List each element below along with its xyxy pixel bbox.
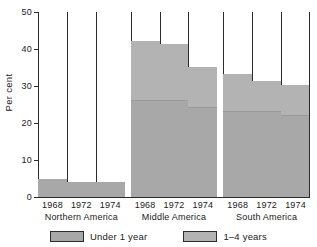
y-tick-label: 50 bbox=[0, 7, 32, 17]
y-tick-label: 10 bbox=[0, 155, 32, 165]
bar-chart: Per cent 01020304050 196819721974Norther… bbox=[0, 0, 317, 247]
bar-segment-1-4-years bbox=[131, 41, 160, 101]
bar-column bbox=[67, 12, 96, 197]
bar-column bbox=[96, 12, 125, 197]
legend-swatch-1-4-years bbox=[183, 231, 217, 242]
legend-label-under-1-year: Under 1 year bbox=[90, 231, 147, 242]
x-tick-label: 1974 bbox=[192, 200, 213, 210]
bar-column bbox=[131, 12, 160, 197]
group-divider bbox=[309, 12, 310, 197]
x-tick-label: 1974 bbox=[285, 200, 306, 210]
bar-segment-under-1-year bbox=[281, 116, 310, 197]
x-axis-line bbox=[38, 197, 310, 198]
bar-segment-under-1-year bbox=[96, 182, 125, 197]
bar-column bbox=[188, 12, 217, 197]
x-tick-label: 1972 bbox=[256, 200, 277, 210]
x-group-label: Middle America bbox=[142, 212, 206, 222]
bar-segment-under-1-year bbox=[38, 179, 67, 198]
x-group-label: South America bbox=[236, 212, 297, 222]
x-tick-label: 1968 bbox=[42, 200, 63, 210]
x-tick-label: 1972 bbox=[164, 200, 185, 210]
bar-segment-under-1-year bbox=[160, 101, 189, 197]
x-tick-label: 1968 bbox=[135, 200, 156, 210]
bar-column bbox=[281, 12, 310, 197]
bar-segment-1-4-years bbox=[252, 81, 281, 112]
x-tick-label: 1974 bbox=[100, 200, 121, 210]
bar-segment-under-1-year bbox=[252, 112, 281, 197]
y-tick-label: 40 bbox=[0, 44, 32, 54]
legend-swatch-under-1-year bbox=[50, 231, 84, 242]
bar-column bbox=[223, 12, 252, 197]
bar-segment-1-4-years bbox=[281, 85, 310, 116]
bar-segment-1-4-years bbox=[160, 44, 189, 101]
chart-legend: Under 1 year 1–4 years bbox=[0, 228, 317, 244]
y-tick-label: 0 bbox=[0, 192, 32, 202]
x-tick-label: 1968 bbox=[227, 200, 248, 210]
bar-segment-under-1-year bbox=[67, 182, 96, 197]
y-tick-label: 20 bbox=[0, 118, 32, 128]
bar-segment-under-1-year bbox=[131, 101, 160, 197]
legend-item-1-4-years: 1–4 years bbox=[183, 231, 267, 242]
x-group-label: Northern America bbox=[45, 212, 118, 222]
legend-label-1-4-years: 1–4 years bbox=[223, 231, 267, 242]
bar-column bbox=[160, 12, 189, 197]
bar-column bbox=[38, 12, 67, 197]
plot-area bbox=[38, 12, 310, 197]
y-tick-label: 30 bbox=[0, 81, 32, 91]
bar-segment-1-4-years bbox=[188, 67, 217, 109]
x-tick-label: 1972 bbox=[71, 200, 92, 210]
bar-segment-under-1-year bbox=[223, 112, 252, 197]
legend-item-under-1-year: Under 1 year bbox=[50, 231, 147, 242]
bar-segment-1-4-years bbox=[223, 74, 252, 112]
y-tick bbox=[34, 197, 39, 198]
bar-segment-under-1-year bbox=[188, 108, 217, 197]
bar-column bbox=[252, 12, 281, 197]
